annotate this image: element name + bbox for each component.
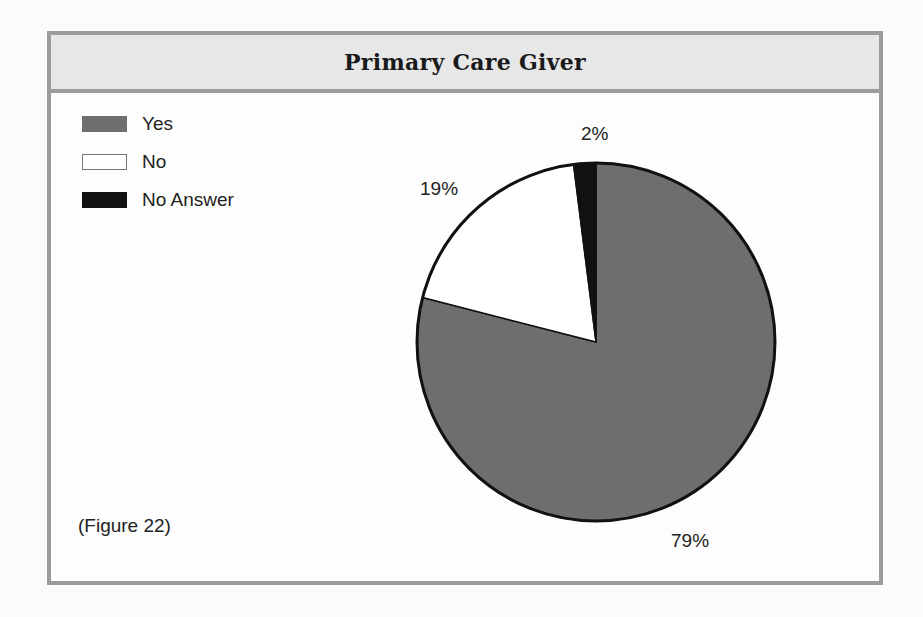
label-no-answer: 2%: [581, 123, 608, 145]
label-no: 19%: [420, 178, 458, 200]
pie-chart: 2% 19% 79%: [51, 35, 879, 581]
figure-caption: (Figure 22): [78, 515, 171, 537]
chart-frame: Primary Care Giver Yes No No Answer 2% 1…: [47, 31, 883, 585]
pie-svg: [51, 35, 879, 581]
label-yes: 79%: [671, 530, 709, 552]
